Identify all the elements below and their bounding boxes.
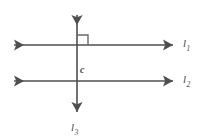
geometry-figure: l1 l2 l3 c <box>0 0 201 138</box>
label-line-l3: l3 <box>71 122 78 136</box>
geometry-canvas <box>0 0 201 138</box>
label-line-l1: l1 <box>183 38 190 52</box>
right-angle-icon <box>77 35 88 45</box>
label-point-c: c <box>80 65 84 75</box>
label-line-l2: l2 <box>183 74 190 88</box>
